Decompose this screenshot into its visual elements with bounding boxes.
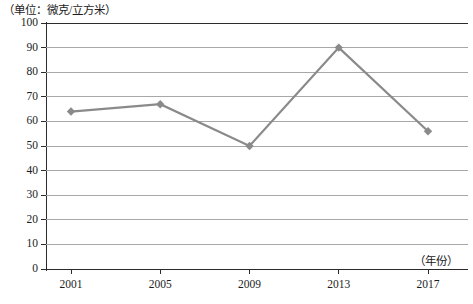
x-tick-label: 2009: [220, 279, 280, 291]
x-tick: [338, 269, 339, 274]
x-tick: [160, 269, 161, 274]
chart-page: （单位：微克/立方米） 0102030405060708090100 20012…: [0, 0, 473, 304]
x-tick-label: 2013: [309, 279, 369, 291]
y-tick-label: 100: [4, 17, 38, 29]
y-tick-label: 0: [4, 263, 38, 275]
y-tick-label: 90: [4, 42, 38, 54]
x-axis-title: （年份）: [414, 256, 458, 268]
unit-note: （单位：微克/立方米）: [3, 1, 116, 17]
y-tick-label: 30: [4, 189, 38, 201]
series-markers: [67, 43, 432, 150]
plot-area: 0102030405060708090100 20012005200920132…: [46, 23, 468, 269]
y-tick-label: 50: [4, 140, 38, 152]
x-tick: [71, 269, 72, 274]
x-tick-label: 2017: [398, 279, 458, 291]
y-tick-label: 20: [4, 214, 38, 226]
data-point-marker: [156, 100, 164, 108]
y-tick-label: 40: [4, 165, 38, 177]
series-polyline: [71, 48, 428, 146]
y-tick-label: 70: [4, 91, 38, 103]
y-tick-label: 10: [4, 238, 38, 250]
x-tick-label: 2001: [41, 279, 101, 291]
y-tick-label: 60: [4, 115, 38, 127]
x-tick: [428, 269, 429, 274]
x-tick: [249, 269, 250, 274]
x-tick-label: 2005: [130, 279, 190, 291]
line-series: [46, 23, 468, 269]
y-tick-label: 80: [4, 66, 38, 78]
data-point-marker: [67, 107, 75, 115]
